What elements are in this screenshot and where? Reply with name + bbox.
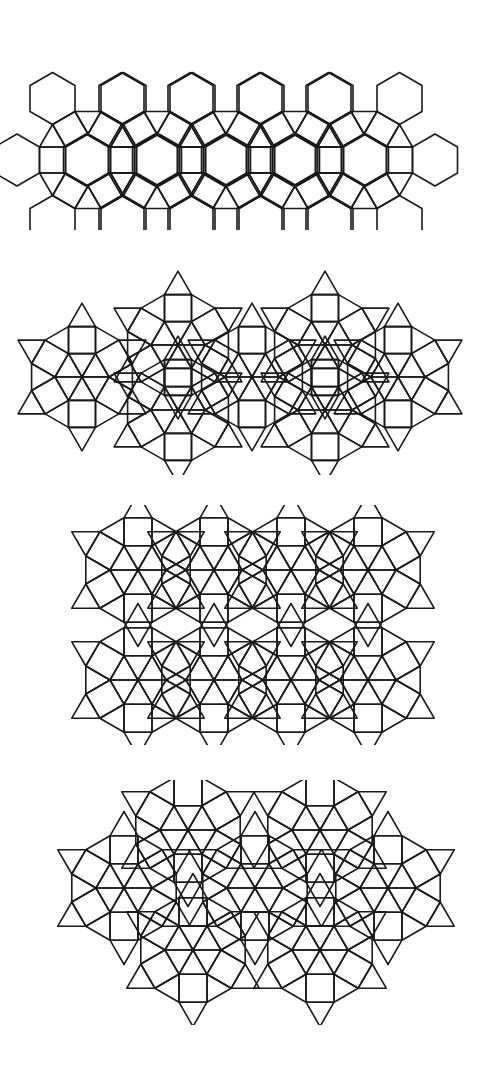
- triangle: [358, 964, 386, 988]
- triangle: [277, 570, 305, 594]
- triangle: [263, 656, 291, 680]
- square: [334, 912, 372, 950]
- triangle: [320, 806, 348, 830]
- triangle: [312, 345, 339, 368]
- square: [207, 950, 245, 988]
- tiling-2: [0, 265, 497, 475]
- triangle: [382, 628, 406, 656]
- triangle: [291, 656, 319, 680]
- triangle: [263, 680, 291, 704]
- square: [86, 642, 124, 680]
- triangle: [425, 364, 448, 391]
- triangle: [340, 680, 368, 704]
- triangle: [277, 505, 305, 518]
- triangle: [151, 322, 178, 345]
- triangle: [86, 556, 110, 584]
- square: [32, 340, 69, 377]
- tiling-3: [0, 505, 497, 745]
- hexagon: [237, 196, 282, 231]
- triangle: [213, 112, 239, 135]
- triangle: [55, 377, 82, 400]
- square: [305, 570, 343, 608]
- triangle: [354, 570, 382, 594]
- square: [109, 147, 135, 173]
- triangle: [58, 850, 86, 874]
- square: [228, 532, 266, 570]
- triangle: [339, 295, 362, 322]
- triangle: [119, 340, 146, 363]
- triangle: [124, 888, 152, 912]
- square: [306, 974, 334, 1002]
- triangle: [388, 888, 416, 912]
- triangle: [266, 400, 289, 427]
- triangle: [122, 792, 150, 816]
- triangle: [334, 898, 358, 926]
- triangle: [179, 926, 207, 950]
- triangle: [302, 694, 330, 718]
- triangle: [435, 340, 462, 363]
- triangle: [151, 410, 178, 433]
- triangle: [329, 642, 357, 666]
- triangle: [329, 532, 357, 556]
- square: [334, 950, 372, 988]
- triangle: [110, 546, 138, 570]
- triangle: [374, 888, 402, 912]
- triangle: [82, 354, 109, 377]
- square: [305, 532, 343, 570]
- square: [165, 360, 192, 387]
- triangle: [75, 112, 101, 135]
- triangle: [277, 546, 305, 570]
- triangle: [179, 950, 207, 974]
- square: [239, 532, 277, 570]
- triangle: [225, 642, 253, 666]
- triangle: [334, 974, 358, 1002]
- triangle: [165, 950, 193, 974]
- triangle: [302, 642, 330, 666]
- square: [72, 850, 110, 888]
- square: [268, 950, 306, 988]
- square: [382, 570, 420, 608]
- triangle: [288, 433, 311, 460]
- hexagon: [101, 196, 146, 231]
- square: [239, 642, 277, 680]
- triangle: [109, 364, 132, 391]
- square: [239, 327, 266, 354]
- triangle: [374, 812, 402, 836]
- square: [86, 680, 124, 718]
- triangle: [18, 340, 45, 363]
- triangle: [214, 570, 242, 594]
- triangle: [69, 354, 96, 377]
- square: [385, 400, 412, 427]
- tiling-4: [0, 780, 497, 1025]
- triangle: [193, 950, 221, 974]
- triangle: [55, 354, 82, 377]
- triangle: [96, 864, 124, 888]
- triangle: [179, 1002, 207, 1025]
- triangle: [382, 518, 406, 546]
- square: [239, 400, 266, 427]
- triangle: [320, 950, 348, 974]
- triangle: [110, 940, 138, 964]
- square: [141, 950, 179, 988]
- triangle: [144, 186, 170, 209]
- triangle: [282, 112, 308, 135]
- triangle: [114, 424, 141, 447]
- triangle: [100, 704, 124, 732]
- triangle: [350, 912, 374, 940]
- triangle: [282, 974, 306, 1002]
- square: [382, 680, 420, 718]
- triangle: [128, 397, 151, 424]
- triangle: [361, 327, 384, 354]
- triangle: [277, 622, 305, 646]
- hexagon: [308, 196, 353, 231]
- triangle: [215, 327, 238, 354]
- triangle: [165, 322, 192, 345]
- triangle: [320, 926, 348, 950]
- triangle: [100, 518, 124, 546]
- triangle: [110, 680, 138, 704]
- triangle: [412, 400, 435, 427]
- triangle: [200, 546, 228, 570]
- triangle: [298, 322, 325, 345]
- triangle: [358, 792, 386, 816]
- triangle: [322, 902, 350, 926]
